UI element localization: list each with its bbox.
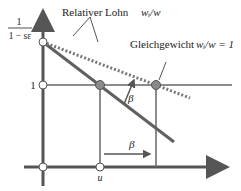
x-tick-u: u [98, 172, 103, 183]
diagram: 1 1 − sε 1 u Relativer Lohn wᵢ/w Gleichg… [0, 0, 241, 191]
point-origin [39, 163, 47, 171]
callout-3 [159, 62, 166, 80]
y-tick-one: 1 [30, 79, 36, 91]
point-one [39, 81, 47, 89]
y-tick-top-den: 1 − sε [9, 31, 32, 41]
point-intersection-2 [152, 81, 161, 90]
relative-wage-label: Relativer Lohn [62, 6, 129, 18]
beta-upper-label: β [127, 92, 134, 104]
point-u [96, 163, 104, 171]
callout-2 [90, 17, 98, 42]
equilibrium-formula: wᵢ/w = 1 [196, 38, 234, 50]
relative-wage-shifted-line [43, 42, 190, 98]
equilibrium-label: Gleichgewicht [130, 38, 194, 50]
callout-1 [73, 17, 90, 36]
point-top [39, 38, 47, 46]
diagram-canvas: 1 1 − sε 1 u Relativer Lohn wᵢ/w Gleichg… [0, 0, 241, 191]
beta-lower-label: β [128, 138, 135, 150]
y-tick-top-num: 1 [17, 16, 22, 27]
relative-wage-line [43, 42, 174, 142]
relative-wage-formula: wᵢ/w [141, 6, 161, 18]
point-intersection-1 [96, 81, 105, 90]
